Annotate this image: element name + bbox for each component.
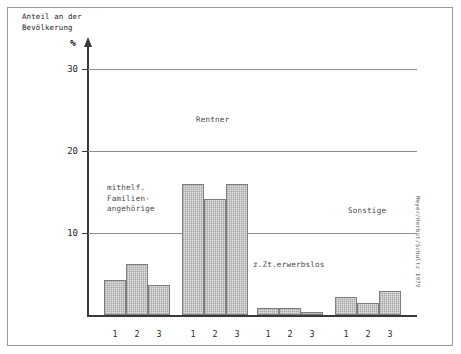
bar-g0-t1 [126, 264, 148, 315]
bar-g3-t1 [357, 303, 379, 315]
bar-g3-t2 [379, 291, 401, 315]
y-axis-title-line2: Bevölkerung [22, 23, 73, 32]
cat-rentner-text: Rentner [196, 115, 229, 124]
gridline-10 [87, 233, 417, 234]
y-axis-title-line1: Anteil an der [22, 12, 82, 21]
tickmark-10 [82, 233, 88, 234]
xtick-label-g3-t0: 1 [343, 329, 348, 339]
cat-mithelf-line3: angehörige [107, 204, 155, 213]
bar-g1-t2 [226, 184, 248, 315]
cat-erwerbslos-text: z.Zt.erwerbslos [253, 260, 325, 269]
y-axis-line [87, 46, 89, 316]
y-axis-unit-label: % [70, 37, 76, 48]
xtick-label-g3-t1: 2 [365, 329, 370, 339]
chart-page: Anteil an der Bevölkerung % 30 20 10 [0, 0, 461, 354]
bar-g3-t0 [335, 297, 357, 315]
y-axis-arrow-icon [84, 37, 92, 47]
xtick-label-g0-t0: 1 [112, 329, 117, 339]
xtick-label-g1-t1: 2 [212, 329, 217, 339]
cat-mithelf-line2: Familien- [107, 194, 150, 203]
ytick-label-30: 30 [67, 64, 78, 74]
category-label-erwerbslos: z.Zt.erwerbslos [253, 260, 325, 271]
y-axis-title: Anteil an der Bevölkerung [22, 12, 82, 33]
xtick-label-g2-t0: 1 [265, 329, 270, 339]
bar-g2-t1 [279, 308, 301, 315]
source-credit: Meyer/Herbst/Schultz 1979 [415, 196, 421, 288]
plot-area: 30 20 10 1 2 3 1 2 3 1 2 [87, 46, 417, 316]
xtick-label-g0-t1: 2 [134, 329, 139, 339]
bar-g1-t1 [204, 199, 226, 315]
cat-mithelf-line1: mithelf. [107, 183, 145, 192]
xtick-label-g1-t2: 3 [234, 329, 239, 339]
tickmark-20 [82, 151, 88, 152]
bar-g2-t0 [257, 308, 279, 315]
gridline-30 [87, 69, 417, 70]
gridline-20 [87, 151, 417, 152]
bar-g0-t0 [104, 280, 126, 315]
category-label-sonstige: Sonstige [348, 206, 386, 217]
xtick-label-g2-t1: 2 [287, 329, 292, 339]
xtick-label-g1-t0: 1 [190, 329, 195, 339]
category-label-rentner: Rentner [196, 115, 229, 126]
bar-g2-t2 [301, 312, 323, 315]
bar-g0-t2 [148, 285, 170, 315]
ytick-label-20: 20 [67, 146, 78, 156]
tickmark-30 [82, 69, 88, 70]
xtick-label-g2-t2: 3 [309, 329, 314, 339]
bar-g1-t0 [182, 184, 204, 315]
x-axis-line [87, 315, 417, 317]
ytick-label-10: 10 [67, 228, 78, 238]
xtick-label-g0-t2: 3 [156, 329, 161, 339]
xtick-label-g3-t2: 3 [387, 329, 392, 339]
category-label-mithelf-familienangehoerige: mithelf. Familien- angehörige [107, 183, 155, 215]
cat-sonstige-text: Sonstige [348, 206, 386, 215]
